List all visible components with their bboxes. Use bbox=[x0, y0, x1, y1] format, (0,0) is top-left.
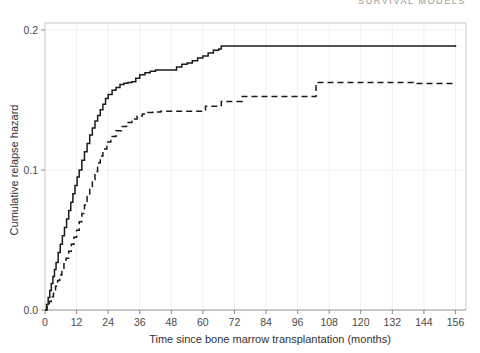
gridlines bbox=[45, 23, 466, 310]
x-axis-tick-label: 36 bbox=[134, 316, 146, 328]
x-axis-tick-label: 96 bbox=[292, 316, 304, 328]
x-axis-title: Time since bone marrow transplantation (… bbox=[149, 333, 391, 345]
x-axis-tick-label: 132 bbox=[384, 316, 402, 328]
x-axis-tick-label: 12 bbox=[71, 316, 83, 328]
y-axis-tick-label: 0.0 bbox=[23, 304, 38, 316]
x-axis-tick-label: 84 bbox=[260, 316, 272, 328]
x-axis-tick-label: 48 bbox=[165, 316, 177, 328]
x-axis-tick-label: 108 bbox=[320, 316, 338, 328]
x-axis-tick-label: 72 bbox=[229, 316, 241, 328]
x-axis-tick-label: 0 bbox=[42, 316, 48, 328]
series-solid-curve bbox=[45, 46, 455, 310]
x-axis-tick-label: 60 bbox=[197, 316, 209, 328]
data-series-group bbox=[45, 46, 455, 310]
x-axis-tick-label: 156 bbox=[447, 316, 465, 328]
y-axis-tick-label: 0.1 bbox=[23, 164, 38, 176]
y-axis-tick-label: 0.2 bbox=[23, 24, 38, 36]
series-dashed-curve bbox=[45, 83, 455, 311]
relapse-hazard-chart: 0.00.10.2 012243648607284961081201321441… bbox=[0, 0, 480, 353]
x-axis: 01224364860728496108120132144156 bbox=[42, 310, 464, 328]
x-axis-tick-label: 120 bbox=[352, 316, 370, 328]
y-axis-title: Cumulative relapse hazard bbox=[8, 105, 20, 236]
x-axis-tick-label: 24 bbox=[102, 316, 114, 328]
y-axis: 0.00.10.2 bbox=[23, 24, 45, 316]
x-axis-tick-label: 144 bbox=[415, 316, 433, 328]
figure-container: SURVIVAL MODELS 0.00.10.2 01224364860728… bbox=[0, 0, 480, 353]
